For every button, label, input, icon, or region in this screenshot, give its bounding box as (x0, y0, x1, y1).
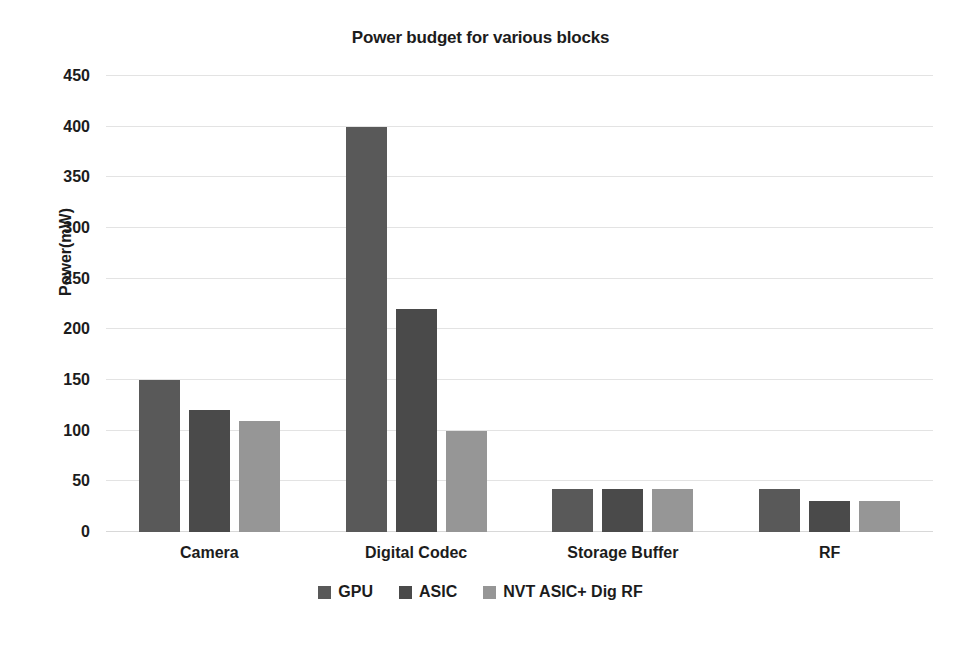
power-budget-bar-chart: Power budget for various blocks Power(mW… (0, 0, 961, 649)
legend-swatch-icon (399, 586, 412, 599)
y-tick-label: 150 (16, 371, 90, 389)
y-tick-label: 50 (16, 472, 90, 490)
legend-swatch-icon (318, 586, 331, 599)
bar (446, 431, 487, 532)
bar (859, 501, 900, 532)
bar-group (759, 76, 900, 532)
y-tick-label: 400 (16, 118, 90, 136)
y-tick-label: 100 (16, 422, 90, 440)
bar (602, 489, 643, 532)
y-axis-title: Power(mW) (57, 172, 75, 332)
y-tick-label: 300 (16, 219, 90, 237)
y-tick-label: 250 (16, 270, 90, 288)
chart-title: Power budget for various blocks (0, 28, 961, 48)
bar (396, 309, 437, 532)
bar (809, 501, 850, 532)
chart-legend: GPUASICNVT ASIC+ Dig RF (0, 583, 961, 601)
legend-label: GPU (338, 583, 373, 601)
x-axis-category-labels: CameraDigital CodecStorage BufferRF (106, 544, 933, 572)
x-category-label: Storage Buffer (513, 544, 733, 562)
bar-group (139, 76, 280, 532)
legend-item[interactable]: GPU (318, 583, 373, 601)
x-category-label: Digital Codec (306, 544, 526, 562)
y-tick-label: 0 (16, 523, 90, 541)
bar (239, 421, 280, 532)
bar (346, 127, 387, 532)
x-category-label: RF (720, 544, 940, 562)
bar-group (552, 76, 693, 532)
y-tick-label: 450 (16, 67, 90, 85)
legend-label: ASIC (419, 583, 457, 601)
legend-swatch-icon (483, 586, 496, 599)
legend-label: NVT ASIC+ Dig RF (503, 583, 642, 601)
y-tick-label: 200 (16, 320, 90, 338)
legend-item[interactable]: ASIC (399, 583, 457, 601)
bar (139, 380, 180, 532)
y-tick-label: 350 (16, 168, 90, 186)
bar (759, 489, 800, 532)
x-category-label: Camera (99, 544, 319, 562)
legend-item[interactable]: NVT ASIC+ Dig RF (483, 583, 642, 601)
bar (652, 489, 693, 532)
bar (189, 410, 230, 532)
bar-group (346, 76, 487, 532)
plot-area (106, 76, 933, 532)
bar (552, 489, 593, 532)
